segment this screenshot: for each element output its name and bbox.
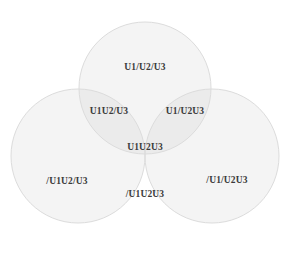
venn-diagram: U1/U2/U3 U1U2/U3 U1/U2U3 U1U2U3 /U1U2/U3… xyxy=(0,0,290,260)
region-label-center-overlap: U1U2U3 xyxy=(127,143,163,153)
region-label-bottom-overlap: /U1U2U3 xyxy=(126,190,165,200)
region-label-top-left-overlap: U1U2/U3 xyxy=(90,107,129,117)
region-label-top-only: U1/U2/U3 xyxy=(124,63,165,73)
region-label-right-only: /U1/U2U3 xyxy=(206,176,247,186)
venn-diagram-graphic xyxy=(0,0,290,260)
region-label-left-only: /U1U2/U3 xyxy=(46,177,87,187)
region-label-top-right-overlap: U1/U2U3 xyxy=(166,107,205,117)
